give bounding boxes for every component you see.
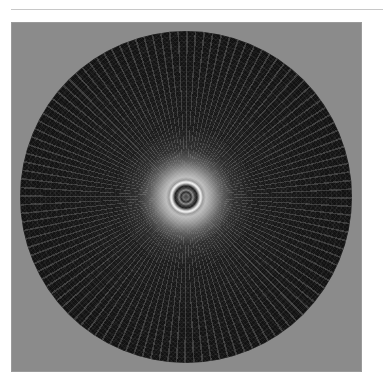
cropped-caption-text xyxy=(180,0,380,4)
texture-overlay xyxy=(20,31,352,363)
horizontal-rule xyxy=(11,9,383,10)
radial-pattern-disc xyxy=(20,31,352,363)
